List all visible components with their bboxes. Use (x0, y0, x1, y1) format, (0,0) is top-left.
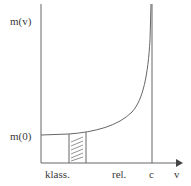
classical-region-hatching (71, 137, 83, 161)
speed-of-light-label: c (149, 168, 154, 180)
mass-velocity-diagram (0, 0, 191, 186)
x-axis-label: v (174, 168, 180, 180)
classical-label: klass. (45, 168, 70, 180)
y-axis-label: m(v) (10, 15, 31, 27)
x-axis-arrow-icon (176, 159, 183, 167)
relativistic-label: rel. (112, 168, 126, 180)
mass-curve (41, 4, 151, 135)
rest-mass-label: m(0) (10, 130, 31, 142)
